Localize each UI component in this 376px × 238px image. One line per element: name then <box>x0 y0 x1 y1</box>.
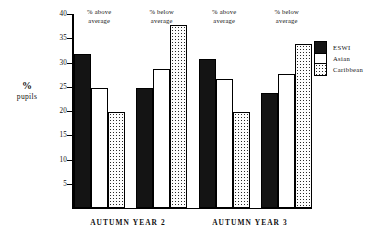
legend-labels: ESWI Asian Caribbean <box>333 41 363 75</box>
bar-asian-group-4 <box>278 74 295 208</box>
bar-eswi-group-2 <box>136 88 153 208</box>
group-caption-1: % aboveaverage <box>67 8 131 25</box>
y-axis-tick-mark <box>67 160 73 161</box>
legend-label-caribbean: Caribbean <box>333 64 363 75</box>
group-caption-line2: average <box>67 17 131 26</box>
group-caption-line1: % below <box>255 8 319 17</box>
y-axis-title-word: pupils <box>17 92 37 101</box>
y-axis-title: % pupils <box>4 80 50 102</box>
y-axis-tick-mark <box>67 87 73 88</box>
legend-swatches <box>314 41 327 76</box>
y-axis-tick-mark <box>67 184 73 185</box>
y-axis-tick-label: 25 <box>45 83 67 90</box>
bar-caribbean-group-4 <box>295 44 312 208</box>
y-axis-tick-label: 10 <box>45 156 67 163</box>
y-axis-title-symbol: % <box>4 80 50 91</box>
x-axis-label-autumn-year-2: AUTUMN YEAR 2 <box>68 218 188 227</box>
group-caption-line1: % below <box>130 8 194 17</box>
bar-caribbean-group-2 <box>170 25 187 208</box>
y-axis-tick-mark <box>67 135 73 136</box>
group-caption-line1: % above <box>192 8 256 17</box>
legend-label-eswi: ESWI <box>333 42 363 53</box>
y-axis-tick-mark <box>67 63 73 64</box>
group-caption-line2: average <box>130 17 194 26</box>
plot-area <box>74 14 313 208</box>
bar-chart: % pupils 403530252015105 % aboveaverage%… <box>0 0 376 238</box>
group-caption-line2: average <box>255 17 319 26</box>
group-caption-2: % belowaverage <box>130 8 194 25</box>
y-axis-tick-mark <box>67 38 73 39</box>
bar-eswi-group-3 <box>199 59 216 208</box>
bar-eswi-group-4 <box>261 93 278 208</box>
group-caption-3: % aboveaverage <box>192 8 256 25</box>
group-caption-line2: average <box>192 17 256 26</box>
y-axis-tick-label: 40 <box>45 11 67 18</box>
legend-swatch-asian <box>315 53 326 64</box>
y-axis-tick-label: 5 <box>45 180 67 187</box>
bar-asian-group-1 <box>91 88 108 208</box>
legend: ESWI Asian Caribbean <box>314 41 363 76</box>
x-axis-label-autumn-year-3: AUTUMN YEAR 3 <box>190 218 310 227</box>
group-caption-4: % belowaverage <box>255 8 319 25</box>
legend-label-asian: Asian <box>333 53 363 64</box>
y-axis-tick-label: 30 <box>45 59 67 66</box>
bar-asian-group-3 <box>216 79 233 208</box>
group-caption-line1: % above <box>67 8 131 17</box>
bar-caribbean-group-3 <box>233 112 250 208</box>
legend-swatch-eswi <box>315 42 326 53</box>
y-axis-tick-label: 20 <box>45 108 67 115</box>
legend-swatch-caribbean <box>315 64 326 75</box>
y-axis-tick-mark <box>67 111 73 112</box>
bar-eswi-group-1 <box>74 54 91 208</box>
bar-asian-group-2 <box>153 69 170 208</box>
y-axis-tick-label: 35 <box>45 35 67 42</box>
bar-caribbean-group-1 <box>108 112 125 208</box>
y-axis-tick-label: 15 <box>45 132 67 139</box>
